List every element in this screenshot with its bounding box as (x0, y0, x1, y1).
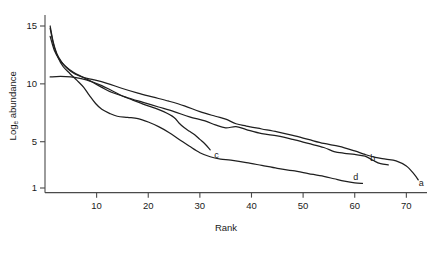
curve-a (50, 26, 418, 180)
y-tick-label: 5 (32, 136, 37, 147)
curve-c (50, 76, 210, 149)
x-tick-label: 20 (143, 200, 154, 211)
rank-abundance-chart: abcd 15101510203040506070 RankLoge abund… (0, 0, 431, 259)
series-curves (50, 26, 418, 183)
series-label-b: b (370, 153, 375, 163)
x-tick-label: 60 (349, 200, 360, 211)
series-label-a: a (419, 178, 424, 188)
y-axis-title: Loge abundance (7, 71, 19, 140)
series-labels: abcd (214, 150, 424, 188)
chart-canvas: abcd 15101510203040506070 RankLoge abund… (0, 0, 431, 259)
x-tick-label: 40 (246, 200, 257, 211)
y-tick-label: 15 (26, 20, 37, 31)
series-label-c: c (214, 150, 219, 160)
x-tick-label: 30 (195, 200, 206, 211)
x-tick-label: 70 (401, 200, 412, 211)
curve-d (50, 28, 362, 183)
y-tick-label: 10 (26, 78, 37, 89)
series-label-d: d (353, 172, 358, 182)
x-tick-label: 50 (298, 200, 309, 211)
x-axis-title: Rank (215, 222, 237, 233)
y-tick-label: 1 (32, 182, 37, 193)
x-tick-label: 10 (91, 200, 102, 211)
